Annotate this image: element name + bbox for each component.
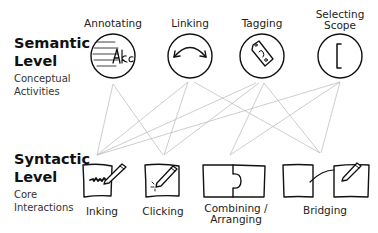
connector-tagging-bridging <box>264 83 320 153</box>
connector-tagging-inking <box>97 83 256 155</box>
bridge-pages-icon <box>283 163 369 197</box>
tag-icon <box>240 34 284 78</box>
pen-click-icon <box>145 164 179 197</box>
link-arrow-icon <box>168 34 212 78</box>
puzzle-pieces-icon <box>203 165 265 197</box>
connector-linking-clicking <box>164 82 188 155</box>
connector-tagging-combining <box>230 83 264 155</box>
connector-tagging-clicking <box>164 83 259 155</box>
pen-scribble-icon <box>83 164 126 197</box>
connector-lines <box>97 82 340 155</box>
bracket-icon <box>318 34 362 78</box>
diagram-canvas <box>0 0 378 233</box>
annotation-text-icon <box>91 34 135 78</box>
